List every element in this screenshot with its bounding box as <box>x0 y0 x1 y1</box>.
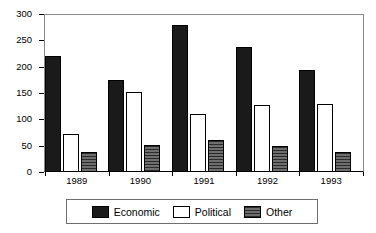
x-axis-tick-mark <box>45 172 46 176</box>
bar-political-1992 <box>254 105 270 172</box>
bar-group <box>172 14 236 172</box>
x-axis-tick-mark <box>363 172 364 176</box>
x-axis-tick-label: 1991 <box>172 175 236 186</box>
y-axis-tick-label: 0 <box>27 167 32 177</box>
legend-label: Political <box>195 206 231 218</box>
y-axis-tick-label: 50 <box>21 141 32 151</box>
x-axis-tick-label: 1993 <box>299 175 363 186</box>
y-axis-tick-mark <box>39 172 44 173</box>
x-axis-tick-label: 1992 <box>236 175 300 186</box>
y-axis-tick-mark <box>39 146 44 147</box>
legend-entry-other: Other <box>244 206 292 218</box>
legend-label: Economic <box>114 206 160 218</box>
hatched-gray-swatch <box>244 206 261 218</box>
bar-other-1990 <box>144 145 160 172</box>
bar-other-1992 <box>272 146 288 172</box>
y-axis-tick-mark <box>39 40 44 41</box>
bar-other-1989 <box>81 152 97 172</box>
legend-entry-economic: Economic <box>92 206 160 218</box>
bar-other-1991 <box>208 140 224 172</box>
x-axis-tick-label: 1989 <box>45 175 109 186</box>
bar-political-1993 <box>317 104 333 172</box>
outlined-white-swatch <box>173 206 190 218</box>
bar-group <box>236 14 300 172</box>
bar-economic-1990 <box>108 80 124 172</box>
x-axis-tick-mark <box>299 172 300 176</box>
bar-group <box>109 14 173 172</box>
bars-container <box>45 14 363 172</box>
x-axis-tick-mark <box>109 172 110 176</box>
x-axis-tick-mark <box>236 172 237 176</box>
bar-political-1991 <box>190 114 206 172</box>
bar-political-1990 <box>126 92 142 172</box>
legend-entry-political: Political <box>173 206 231 218</box>
y-axis-tick-label: 150 <box>16 88 32 98</box>
bar-economic-1992 <box>236 47 252 172</box>
solid-black-swatch <box>92 206 109 218</box>
bar-chart: 050100150200250300 19891990199119921993 … <box>0 0 376 233</box>
bar-political-1989 <box>63 134 79 172</box>
y-axis-tick-mark <box>39 67 44 68</box>
bar-group <box>45 14 109 172</box>
y-axis: 050100150200250300 <box>0 0 40 233</box>
x-axis-tick-label: 1990 <box>109 175 173 186</box>
x-axis-tick-mark <box>172 172 173 176</box>
bar-other-1993 <box>335 152 351 172</box>
y-axis-tick-label: 250 <box>16 35 32 45</box>
x-axis: 19891990199119921993 <box>45 175 363 189</box>
y-axis-tick-label: 100 <box>16 114 32 124</box>
y-axis-tick-label: 300 <box>16 9 32 19</box>
bar-economic-1989 <box>45 56 61 172</box>
y-axis-tick-mark <box>39 14 44 15</box>
legend-label: Other <box>266 206 292 218</box>
bar-economic-1993 <box>299 70 315 172</box>
y-axis-tick-mark <box>39 119 44 120</box>
y-axis-tick-mark <box>39 93 44 94</box>
bar-group <box>299 14 363 172</box>
y-axis-tick-label: 200 <box>16 62 32 72</box>
chart-legend: EconomicPoliticalOther <box>66 199 318 224</box>
bar-economic-1991 <box>172 25 188 172</box>
